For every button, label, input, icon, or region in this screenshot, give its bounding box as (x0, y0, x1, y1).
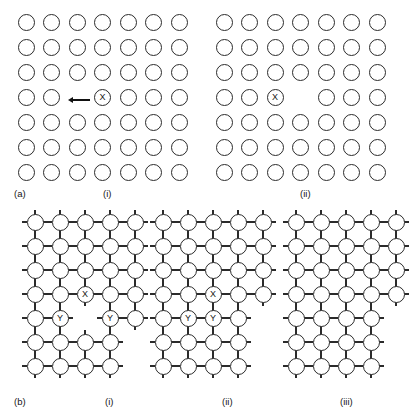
lattice-bond-horizontal (404, 245, 409, 246)
lattice-site (288, 214, 305, 231)
lattice-bond-horizontal (404, 269, 409, 270)
lattice-site (338, 310, 355, 327)
lattice-site (338, 334, 355, 351)
lattice-site (363, 262, 380, 279)
lattice-site (388, 214, 405, 231)
lattice-site (363, 310, 380, 327)
lattice-bond-horizontal (404, 293, 409, 294)
lattice-site (313, 358, 330, 375)
lattice-site (338, 262, 355, 279)
lattice-site (388, 286, 405, 303)
lattice-site (313, 310, 330, 327)
lattice-site (363, 286, 380, 303)
lattice-bond-horizontal (379, 341, 384, 342)
lattice-bond-horizontal (379, 365, 384, 366)
lattice-site (363, 238, 380, 255)
lattice-bond-horizontal (379, 317, 384, 318)
lattice-site (338, 286, 355, 303)
lattice-site (363, 358, 380, 375)
lattice-site (313, 214, 330, 231)
lattice-site (313, 286, 330, 303)
lattice-site (288, 286, 305, 303)
lattice-site (288, 358, 305, 375)
lattice-site (313, 262, 330, 279)
lattice-site (288, 334, 305, 351)
lattice-site (313, 238, 330, 255)
lattice-bond-horizontal (404, 221, 409, 222)
lattice-site (313, 334, 330, 351)
lattice-site (388, 262, 405, 279)
lattice-site (388, 238, 405, 255)
lattice-site (338, 358, 355, 375)
lattice-panel-b-iii: (iii) (0, 0, 420, 418)
figure-canvas: (a)X(i)X(ii)(b)XYY(i)XYY(ii)(iii) (0, 0, 420, 418)
lattice-site (288, 238, 305, 255)
panel-caption-b-iii: (iii) (340, 396, 353, 407)
lattice-site (363, 214, 380, 231)
lattice-site (363, 334, 380, 351)
lattice-site (288, 310, 305, 327)
lattice-site (288, 262, 305, 279)
lattice-site (338, 238, 355, 255)
lattice-site (338, 214, 355, 231)
